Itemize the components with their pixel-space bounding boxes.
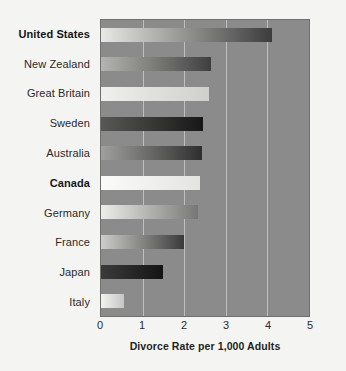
category-label: United States [0,19,96,49]
category-label: Italy [0,287,96,317]
x-tick-label: 3 [223,319,229,331]
x-tick-label: 2 [181,319,187,331]
x-axis-title: Divorce Rate per 1,000 Adults [100,340,310,352]
bar [101,205,198,219]
bar-row [101,286,309,316]
category-label: New Zealand [0,49,96,79]
bar [101,235,184,249]
bar [101,176,200,190]
bar-series [101,20,309,316]
x-tick-label: 0 [97,319,103,331]
x-tick-label: 5 [307,319,313,331]
bar [101,294,124,308]
category-label: Germany [0,198,96,228]
bar [101,28,272,42]
category-axis-labels: United StatesNew ZealandGreat BritainSwe… [0,19,96,317]
bar-row [101,168,309,198]
bar [101,87,209,101]
bar-row [101,198,309,228]
divorce-rate-bar-chart: United StatesNew ZealandGreat BritainSwe… [0,0,346,371]
x-tick-label: 1 [139,319,145,331]
x-axis-tick-labels: 012345 [100,319,310,335]
bar-row [101,138,309,168]
bar [101,57,211,71]
bar-row [101,79,309,109]
category-label: Sweden [0,108,96,138]
bar-row [101,227,309,257]
plot-area [100,19,310,317]
category-label: Australia [0,138,96,168]
bar-row [101,20,309,50]
category-label: France [0,228,96,258]
x-tick-label: 4 [265,319,271,331]
category-label: Canada [0,168,96,198]
category-label: Great Britain [0,79,96,109]
bar-row [101,50,309,80]
bar [101,117,203,131]
category-label: Japan [0,257,96,287]
bar-row [101,257,309,287]
bar [101,265,163,279]
bar [101,146,202,160]
bar-row [101,109,309,139]
